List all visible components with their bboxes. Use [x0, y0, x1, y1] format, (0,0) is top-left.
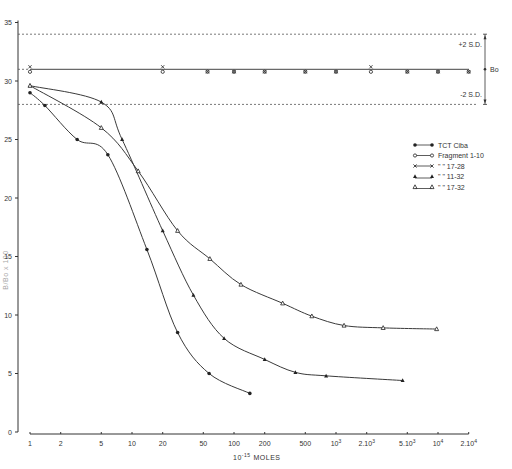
legend-label: " " 11-32	[438, 173, 464, 180]
curves	[30, 86, 437, 394]
filled-circle-icon	[75, 138, 79, 142]
legend-item: " " 17-28	[413, 163, 464, 170]
filled-circle-icon	[207, 372, 211, 376]
axes: 051015202530351251020501002005001032.103…	[4, 19, 477, 447]
x-tick-label: 5.103	[399, 438, 416, 447]
x-tick-label: 500	[299, 440, 311, 447]
legend-item: Fragment 1-10	[413, 152, 484, 160]
x-tick-label: 100	[228, 440, 240, 447]
chart: 051015202530351251020501002005001032.103…	[0, 0, 512, 469]
x-tick-label: 200	[259, 440, 271, 447]
legend-label: Fragment 1-10	[438, 152, 484, 160]
open-triangle-icon	[413, 185, 417, 189]
x-tick-label: 104	[433, 438, 444, 447]
open-triangle-icon	[28, 83, 32, 87]
arrow-up-icon	[484, 35, 487, 39]
open-circle-icon	[28, 70, 31, 73]
filled-triangle-icon	[413, 174, 417, 178]
data-markers	[28, 65, 470, 395]
y-tick-label: 35	[4, 19, 12, 26]
x-tick-label: 5	[99, 440, 103, 447]
y-tick-label: 0	[8, 429, 12, 436]
filled-circle-icon	[145, 248, 149, 252]
filled-circle-icon	[176, 331, 180, 335]
plus-2sd-label: +2 S.D.	[458, 41, 482, 48]
filled-triangle-icon	[161, 229, 165, 233]
y-tick-label: 30	[4, 78, 12, 85]
x-axis-title: 10-15MOLES	[233, 452, 281, 461]
y-tick-label: 25	[4, 136, 12, 143]
filled-circle-icon	[413, 143, 417, 147]
legend-item: " " 17-32	[413, 184, 465, 191]
filled-circle-icon	[106, 153, 110, 157]
filled-circle-icon	[43, 104, 47, 108]
filled-triangle-icon	[430, 174, 434, 178]
legend-item: TCT Ciba	[413, 142, 468, 149]
open-circle-icon	[413, 154, 416, 157]
bo-dot-icon	[484, 68, 487, 71]
open-triangle-icon	[435, 327, 439, 331]
series-curve	[30, 86, 437, 329]
legend-label: TCT Ciba	[438, 142, 468, 149]
x-marker-icon	[161, 65, 164, 68]
open-circle-icon	[161, 70, 164, 73]
x-tick-label: 2.103	[359, 438, 376, 447]
legend-label: " " 17-32	[438, 184, 465, 191]
open-circle-icon	[430, 154, 433, 157]
open-triangle-icon	[342, 323, 346, 327]
open-triangle-icon	[281, 301, 285, 305]
filled-circle-icon	[430, 143, 434, 147]
arrow-down-icon	[484, 99, 487, 103]
x-marker-icon	[369, 65, 372, 68]
bo-label: Bo	[490, 66, 499, 73]
y-tick-label: 10	[4, 312, 12, 319]
open-triangle-icon	[430, 185, 434, 189]
open-circle-icon	[369, 70, 372, 73]
y-axis-title: B/Bo x 100	[2, 250, 9, 289]
x-marker-icon	[28, 65, 31, 68]
x-tick-label: 50	[199, 440, 207, 447]
legend-label: " " 17-28	[438, 163, 465, 170]
legend: TCT CibaFragment 1-10" " 17-28" " 11-32"…	[413, 142, 484, 191]
minus-2sd-label: -2 S.D.	[460, 91, 482, 98]
filled-circle-icon	[28, 91, 32, 95]
x-tick-label: 2	[59, 440, 63, 447]
open-triangle-icon	[239, 282, 243, 286]
x-tick-label: 2.104	[461, 438, 478, 447]
x-tick-label: 10	[128, 440, 136, 447]
filled-circle-icon	[248, 392, 252, 396]
y-tick-label: 5	[8, 370, 12, 377]
x-tick-label: 20	[159, 440, 167, 447]
x-tick-label: 1	[28, 440, 32, 447]
reference-lines	[18, 34, 478, 104]
x-tick-label: 103	[331, 438, 342, 447]
filled-triangle-icon	[120, 137, 124, 141]
series-curve	[30, 93, 250, 394]
y-tick-label: 20	[4, 195, 12, 202]
legend-item: " " 11-32	[413, 173, 464, 180]
open-triangle-icon	[310, 314, 314, 318]
series-curve	[30, 86, 403, 381]
open-triangle-icon	[381, 326, 385, 330]
